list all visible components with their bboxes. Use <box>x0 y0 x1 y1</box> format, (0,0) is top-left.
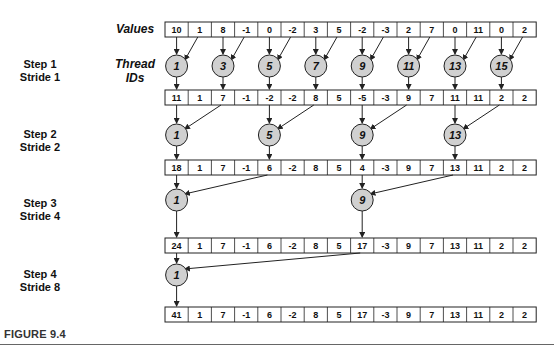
array-cell: 3 <box>313 25 318 35</box>
array-cell: 1 <box>197 93 202 103</box>
array-cell: 5 <box>336 163 341 173</box>
array-cell: 8 <box>313 93 318 103</box>
array-cell: 1 <box>197 163 202 173</box>
arrow <box>324 37 337 60</box>
array-cell: 13 <box>450 310 460 320</box>
array-cell: 2 <box>406 25 411 35</box>
array-cell: -1 <box>242 163 250 173</box>
array-cell: 6 <box>267 310 272 320</box>
array-cell: 2 <box>522 25 527 35</box>
array-cell: 2 <box>499 93 504 103</box>
array-cell: 6 <box>267 163 272 173</box>
arrow <box>463 37 476 60</box>
array-cell: 11 <box>473 241 483 251</box>
svg-text:9: 9 <box>359 60 366 72</box>
value-array-2: 1817-16-2854-397131122 <box>165 160 536 175</box>
thread-node: 1 <box>166 124 188 146</box>
arrow <box>278 37 291 60</box>
reduction-diagram: 1018-10-235-2-327011021117-1-2-285-5-397… <box>0 0 554 351</box>
array-cell: 2 <box>522 163 527 173</box>
array-cell: 7 <box>220 93 225 103</box>
thread-node: 15 <box>490 55 512 77</box>
array-cell: 5 <box>336 310 341 320</box>
arrow <box>231 37 244 60</box>
array-cell: 11 <box>473 310 483 320</box>
array-cell: 7 <box>220 163 225 173</box>
array-cell: 1 <box>197 25 202 35</box>
figure-caption: FIGURE 9.4 <box>4 328 66 340</box>
svg-text:1: 1 <box>174 129 180 141</box>
arrow <box>185 175 268 194</box>
array-cell: 9 <box>406 310 411 320</box>
thread-node: 1 <box>166 189 188 211</box>
arrow <box>463 105 499 129</box>
array-cell: -1 <box>242 241 250 251</box>
caption-rule <box>0 344 554 345</box>
array-cell: 5 <box>336 25 341 35</box>
array-cell: 41 <box>172 310 182 320</box>
array-cell: -3 <box>381 93 389 103</box>
array-cell: -1 <box>242 25 250 35</box>
array-cell: -2 <box>289 163 297 173</box>
svg-text:1: 1 <box>174 194 180 206</box>
arrow <box>370 175 453 194</box>
array-cell: 0 <box>452 25 457 35</box>
array-cell: 6 <box>267 241 272 251</box>
array-cell: 2 <box>522 93 527 103</box>
array-cell: 2 <box>499 163 504 173</box>
array-cell: -2 <box>289 25 297 35</box>
array-cell: 18 <box>172 163 182 173</box>
array-cell: 1 <box>197 310 202 320</box>
svg-text:1: 1 <box>174 269 180 281</box>
svg-text:5: 5 <box>266 60 273 72</box>
svg-text:5: 5 <box>266 129 273 141</box>
array-cell: 5 <box>336 241 341 251</box>
svg-text:1: 1 <box>174 60 180 72</box>
array-cell: 2 <box>499 310 504 320</box>
array-cell: -1 <box>242 93 250 103</box>
array-cell: 1 <box>197 241 202 251</box>
array-cell: -2 <box>265 93 273 103</box>
svg-text:9: 9 <box>359 194 366 206</box>
array-cell: -2 <box>289 241 297 251</box>
array-cell: 11 <box>450 93 460 103</box>
array-cell: 17 <box>357 310 367 320</box>
array-cell: 17 <box>357 241 367 251</box>
array-cell: -5 <box>358 93 366 103</box>
array-cell: -2 <box>289 310 297 320</box>
array-cell: 9 <box>406 93 411 103</box>
thread-node: 13 <box>444 124 466 146</box>
svg-text:15: 15 <box>495 60 508 72</box>
arrow <box>185 105 221 129</box>
svg-text:3: 3 <box>220 60 226 72</box>
array-cell: 2 <box>499 241 504 251</box>
array-cell: 9 <box>406 241 411 251</box>
svg-text:9: 9 <box>359 129 366 141</box>
array-cell: 0 <box>267 25 272 35</box>
array-cell: 8 <box>220 25 225 35</box>
arrow <box>510 37 523 60</box>
array-cell: 2 <box>522 310 527 320</box>
array-cell: 11 <box>473 163 483 173</box>
array-cell: 7 <box>429 25 434 35</box>
array-cell: 11 <box>473 25 483 35</box>
svg-text:13: 13 <box>449 129 461 141</box>
thread-node: 5 <box>258 124 280 146</box>
thread-node: 9 <box>351 55 373 77</box>
array-cell: 10 <box>172 25 182 35</box>
thread-node: 1 <box>166 55 188 77</box>
svg-text:7: 7 <box>313 60 320 72</box>
arrow <box>185 37 198 60</box>
array-cell: 7 <box>429 310 434 320</box>
thread-node: 11 <box>398 55 420 77</box>
arrow <box>417 37 430 60</box>
thread-node: 9 <box>351 124 373 146</box>
thread-node: 13 <box>444 55 466 77</box>
array-cell: -2 <box>289 93 297 103</box>
arrow <box>278 105 314 129</box>
array-cell: 4 <box>360 163 365 173</box>
value-array-0: 1018-10-235-2-32701102 <box>165 22 536 37</box>
arrow <box>185 253 360 269</box>
value-array-4: 4117-16-28517-397131122 <box>165 307 536 322</box>
thread-node: 7 <box>305 55 327 77</box>
